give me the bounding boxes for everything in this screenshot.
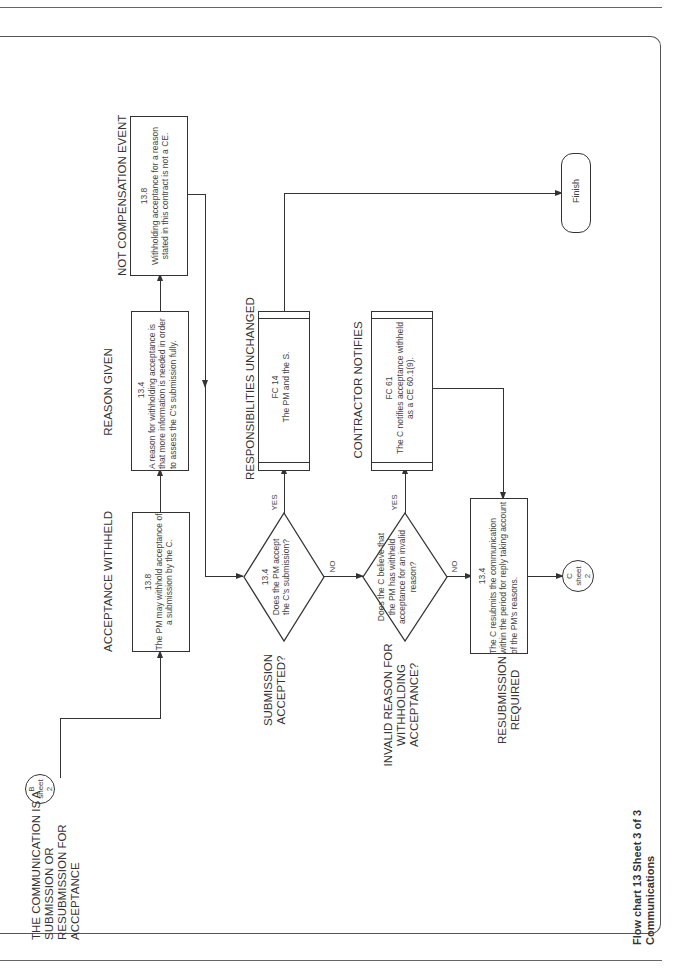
invalid-reason-label: INVALID REASON FOR WITHHOLDING ACCEPTANC… — [382, 640, 424, 770]
not-compensation-event-text: 13.8 Withholding acceptance for a reason… — [131, 117, 187, 275]
flowchart-caption: Flow chart 13 Sheet 3 of 3 Communication… — [631, 795, 659, 945]
acceptance-withheld-heading: ACCEPTANCE WITHHELD — [102, 512, 118, 652]
connector-line — [187, 194, 206, 195]
arrow-icon — [202, 380, 208, 388]
connector-line — [60, 718, 161, 719]
box-band — [371, 462, 433, 463]
connector-line — [503, 388, 504, 498]
top-rule — [0, 7, 662, 8]
decision-accept-text: 13.4 Does the PM accept the C's submissi… — [260, 532, 308, 622]
decision-accept-no: NO — [328, 557, 337, 577]
contractor-notifies-heading: CONTRACTOR NOTIFIES — [352, 320, 368, 460]
connector-line — [160, 656, 161, 719]
reason-given-heading: REASON GIVEN — [102, 342, 118, 442]
contractor-notifies-text: FC 61 The C notifies acceptance withheld… — [380, 318, 424, 458]
submission-accepted-label: SUBMISSION ACCEPTED? — [262, 640, 290, 740]
not-compensation-event-heading: NOT COMPENSATION EVENT — [116, 116, 132, 276]
bottom-rule — [0, 960, 662, 961]
connector-line — [428, 388, 504, 389]
decision-invalid-text: Does the C believe that the PM has withh… — [376, 529, 434, 625]
connector-c-label: C sheet 2 — [562, 560, 594, 592]
resubmission-required-label: RESUBMISSION REQUIRED — [496, 650, 524, 750]
decision-invalid-yes: YES — [390, 493, 399, 513]
decision-accept-yes: YES — [270, 493, 279, 513]
connector-line — [284, 470, 285, 515]
connector-line — [405, 470, 406, 516]
responsibilities-unchanged-heading: RESPONSIBILITIES UNCHANGED — [244, 300, 260, 480]
box-band — [258, 462, 310, 463]
reason-given-text: 13.4 A reason for withholding acceptance… — [132, 311, 188, 469]
finish-label: Finish — [571, 161, 581, 221]
acceptance-withheld-text: 13.8 The PM may withhold acceptance of a… — [133, 512, 189, 652]
connector-line — [60, 718, 61, 778]
resubmission-text: 13.4 The C resubmits the communication w… — [471, 498, 527, 654]
connector-line — [160, 470, 161, 512]
communication-label: THE COMMUNICATION IS A SUBMISSION OR RES… — [30, 780, 90, 940]
connector-line — [284, 193, 558, 194]
connector-line — [284, 193, 285, 311]
decision-invalid-no: NO — [450, 557, 459, 577]
responsibilities-unchanged-text: FC 14 The PM and the S. — [266, 317, 302, 457]
